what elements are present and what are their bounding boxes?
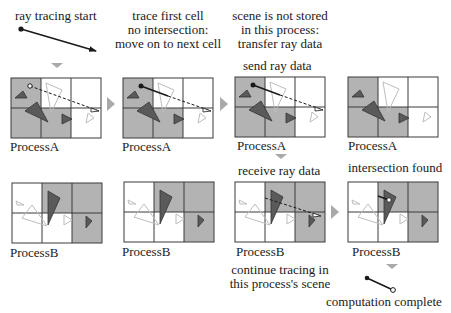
- process-label-a3: ProcessA: [237, 139, 286, 153]
- flow-arrow-down: [275, 154, 287, 159]
- flow-arrow-down: [386, 264, 398, 269]
- flow-arrow-down: [51, 63, 63, 68]
- grid-panel-a1: [11, 78, 101, 138]
- grid-cell: [378, 107, 408, 137]
- process-label-b4: ProcessB: [352, 245, 400, 259]
- grid-cell: [124, 182, 154, 212]
- process-label-b2: ProcessB: [122, 245, 170, 259]
- grid-cell: [265, 107, 295, 137]
- ray-origin: [139, 84, 144, 89]
- process-label-a1: ProcessA: [10, 140, 59, 154]
- grid-cell: [71, 78, 101, 108]
- ray-origin: [251, 83, 256, 88]
- grid-cell: [295, 77, 325, 107]
- grid-cell: [235, 182, 265, 212]
- process-label-b1: ProcessB: [10, 246, 58, 260]
- caption-intersection-found: intersection found: [348, 161, 442, 175]
- caption-line: scene is not stored: [226, 9, 334, 23]
- caption-line: continue tracing in: [226, 263, 334, 277]
- intersection-point: [387, 198, 391, 202]
- caption-ray-tracing-start: ray tracing start: [15, 9, 97, 23]
- ray-start-illustration: [18, 26, 96, 51]
- grid-cell: [153, 108, 183, 138]
- ray-start-arrow: [21, 29, 96, 51]
- computation-complete-illustration: [365, 276, 396, 293]
- grid-panel-a3: [235, 77, 325, 137]
- grid-cell: [295, 182, 325, 212]
- caption-trace-first-cell: trace first cell no intersection: move o…: [112, 9, 224, 51]
- caption-line: this process's scene: [226, 277, 334, 291]
- grid-cell: [12, 183, 42, 213]
- grid-cell: [235, 212, 265, 242]
- grid-cell: [348, 212, 378, 242]
- process-label-a2: ProcessA: [122, 140, 171, 154]
- caption-line: in this process:: [226, 23, 334, 37]
- final-ray-segment: [367, 278, 393, 290]
- grid-panel-b1: [12, 183, 102, 243]
- final-ray-origin-dot: [365, 276, 370, 281]
- caption-scene-not-stored: scene is not stored in this process: tra…: [226, 9, 334, 51]
- grid-cell: [183, 78, 213, 108]
- grid-cell: [72, 183, 102, 213]
- process-label-a4: ProcessA: [348, 139, 397, 153]
- grid-cell: [408, 77, 438, 107]
- grid-cell: [41, 108, 71, 138]
- grid-panel-b4: [348, 182, 438, 242]
- grid-cell: [348, 182, 378, 212]
- caption-line: move on to next cell: [112, 37, 224, 51]
- flow-arrow-right: [220, 97, 228, 111]
- process-label-b3: ProcessB: [236, 245, 284, 259]
- grid-cell: [408, 182, 438, 212]
- grid-panel-b3: [235, 182, 325, 242]
- grid-cell: [124, 212, 154, 242]
- caption-continue-tracing: continue tracing in this process's scene: [226, 263, 334, 291]
- grid-panel-a2: [123, 78, 213, 138]
- caption-line: trace first cell: [112, 9, 224, 23]
- grid-panel-a4: [348, 77, 438, 137]
- grid-cell: [12, 213, 42, 243]
- ray-origin: [28, 84, 32, 88]
- caption-receive-ray-data: receive ray data: [238, 164, 320, 178]
- grid-cell: [184, 182, 214, 212]
- flow-arrow-right: [107, 97, 115, 111]
- caption-line: no intersection:: [112, 23, 224, 37]
- grid-panel-b2: [124, 182, 214, 242]
- flow-arrow-right: [331, 205, 339, 219]
- caption-line: transfer ray data: [226, 37, 334, 51]
- final-hit-point: [391, 288, 396, 293]
- caption-computation-complete: computation complete: [326, 295, 442, 309]
- caption-send-ray-data: send ray data: [243, 59, 312, 73]
